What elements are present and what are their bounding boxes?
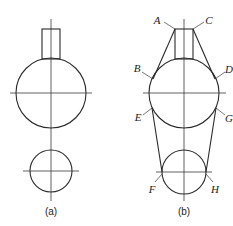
- label-f: F: [148, 183, 156, 195]
- leader-d: [215, 72, 225, 79]
- label-b: B: [134, 62, 141, 74]
- label-e: E: [134, 111, 142, 123]
- tangent-line-e-f: [152, 108, 162, 172]
- label-h: H: [210, 183, 220, 195]
- tangent-line-a-b: [153, 29, 175, 79]
- leader-f: [155, 174, 162, 182]
- leader-c: [193, 22, 204, 29]
- label-c: C: [205, 14, 213, 26]
- caption-a: (a): [45, 206, 57, 217]
- leader-a: [164, 22, 175, 29]
- label-d: D: [224, 63, 233, 75]
- leader-b: [142, 72, 153, 79]
- leader-g: [216, 108, 225, 115]
- label-a: A: [153, 14, 161, 26]
- tangent-line-g-h: [206, 108, 216, 172]
- drawing-canvas: (a) A C B D E G F H (b): [0, 0, 233, 226]
- label-g: G: [225, 112, 233, 124]
- figure-a: (a): [10, 19, 92, 217]
- caption-b: (b): [178, 206, 190, 217]
- leader-e: [143, 108, 152, 115]
- tangent-line-c-d: [193, 29, 215, 79]
- leader-h: [206, 174, 213, 182]
- figure-b: A C B D E G F H (b): [134, 14, 233, 217]
